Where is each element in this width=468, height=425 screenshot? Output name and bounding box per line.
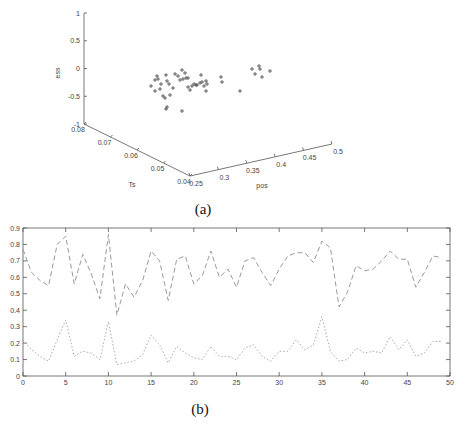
- scatter-point: [165, 79, 169, 83]
- x-tick-label: 0.3: [220, 174, 230, 181]
- x-tick-label: 40: [361, 379, 369, 386]
- y-tick-label: 0.8: [10, 241, 20, 248]
- scatter-point: [180, 68, 184, 72]
- y-tick-label: 0.4: [10, 307, 20, 314]
- x-tick-label: 0.4: [276, 161, 286, 168]
- z-tick-label: 1: [76, 10, 80, 17]
- scatter-point: [163, 96, 167, 100]
- x-tick-label: 20: [190, 379, 198, 386]
- y-tick-label: 0.08: [71, 126, 85, 133]
- y-tick-label: 0.2: [10, 340, 20, 347]
- y-tick-label: 0.05: [151, 165, 165, 172]
- scatter-point: [153, 89, 157, 93]
- series-upper-dashed: [23, 235, 442, 316]
- scatter-3d-plot: -1-0.500.510.080.070.060.050.040.250.30.…: [54, 10, 343, 191]
- scatter-point: [250, 67, 254, 71]
- y-tick-label: 0.5: [10, 290, 20, 297]
- scatter-point: [149, 84, 153, 88]
- z-tick-label: 0: [76, 65, 80, 72]
- z-axis-label: ess: [54, 67, 61, 78]
- scatter-point: [161, 94, 165, 98]
- scatter-point: [171, 86, 175, 90]
- y-tick-label: 0.06: [124, 152, 138, 159]
- scatter-point: [253, 72, 257, 76]
- scatter-point: [202, 84, 206, 88]
- scatter-point: [176, 74, 180, 78]
- x-tick-label: 35: [318, 379, 326, 386]
- scatter-point: [183, 71, 187, 75]
- scatter-point: [186, 85, 190, 89]
- scatter-point: [186, 76, 190, 80]
- x-tick-label: 15: [147, 379, 155, 386]
- x-tick-label: 0: [21, 379, 25, 386]
- scatter-point: [190, 84, 194, 88]
- x-tick-label: 0.25: [189, 180, 203, 187]
- axes-3d-ticks: -1-0.500.510.080.070.060.050.040.250.30.…: [68, 10, 343, 188]
- y-tick-label: 0.1: [10, 356, 20, 363]
- y-tick-label: 0.7: [10, 257, 20, 264]
- scatter-point: [164, 73, 168, 77]
- scatter-point: [238, 89, 242, 93]
- x-tick-label: 10: [105, 379, 113, 386]
- x-tick-label: 5: [64, 379, 68, 386]
- series-lower-dotted: [23, 317, 442, 365]
- x-axis-label: pos: [256, 182, 268, 190]
- scatter-point: [268, 69, 272, 73]
- axes-ticks: 0510152025303540455000.10.20.30.40.50.60…: [10, 225, 454, 387]
- y-tick-label: 0.6: [10, 274, 20, 281]
- scatter-points: [149, 64, 272, 113]
- line-chart: 0510152025303540455000.10.20.30.40.50.60…: [10, 225, 454, 387]
- z-tick-label: -0.5: [68, 93, 80, 100]
- x-tick-label: 50: [446, 379, 454, 386]
- scatter-point: [167, 82, 171, 86]
- scatter-point: [180, 109, 184, 113]
- scatter-point: [219, 75, 223, 79]
- y-tick-label: 0.07: [98, 139, 112, 146]
- x-tick-label: 0.45: [303, 154, 317, 161]
- caption-b: (b): [191, 401, 209, 418]
- y-tick-label: 0.9: [10, 225, 20, 232]
- z-tick-label: 0.5: [70, 37, 80, 44]
- scatter-point: [204, 89, 208, 93]
- scatter-point: [220, 80, 224, 84]
- scatter-point: [173, 72, 177, 76]
- plot-frame: [23, 228, 450, 376]
- scatter-point: [260, 75, 264, 79]
- x-tick-label: 25: [233, 379, 241, 386]
- scatter-point: [158, 87, 162, 91]
- x-tick-label: 0.35: [246, 167, 260, 174]
- scatter-point: [159, 82, 163, 86]
- scatter-point: [168, 93, 172, 97]
- caption-a: (a): [195, 201, 212, 218]
- x-tick-label: 45: [403, 379, 411, 386]
- x-tick-label: 30: [275, 379, 283, 386]
- scatter-point: [188, 88, 192, 92]
- figure: -1-0.500.510.080.070.060.050.040.250.30.…: [0, 0, 468, 425]
- y-tick-label: 0: [16, 373, 20, 380]
- y-axis-label: Ts: [129, 181, 137, 188]
- x-tick-label: 0.5: [333, 148, 343, 155]
- y-tick-label: 0.3: [10, 323, 20, 330]
- axes-3d: [84, 13, 332, 176]
- scatter-point: [199, 73, 203, 77]
